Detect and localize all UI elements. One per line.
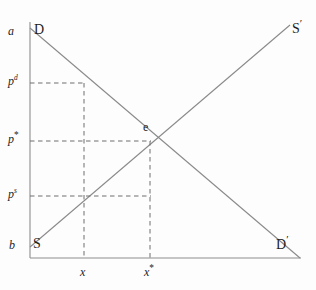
demand-intercept-label-a: a (8, 25, 14, 37)
equilibrium-point-label: e (143, 121, 148, 133)
supply-intercept-label-b: b (9, 239, 15, 251)
supply-demand-chart: a D S′ pd p* e ps b S D′ x x* (0, 0, 316, 290)
demand-curve (30, 28, 300, 258)
quantity-x-star-label: x* (144, 266, 154, 278)
price-supply-label: ps (8, 188, 17, 200)
supply-curve (30, 25, 290, 247)
price-supply-superscript: s (14, 186, 17, 195)
demand-curve-end-label: D′ (276, 238, 289, 252)
supply-prime-mark: ′ (300, 17, 302, 29)
demand-prime-mark: ′ (286, 233, 288, 245)
quantity-x-label: x (80, 266, 85, 278)
quantity-x-star-superscript: * (149, 263, 154, 273)
price-demand-label: pd (8, 75, 18, 87)
demand-curve-start-label: D (34, 23, 44, 37)
price-demand-superscript: d (14, 73, 18, 82)
price-equilibrium-superscript: * (14, 130, 19, 140)
supply-curve-end-label: S′ (292, 22, 302, 36)
supply-curve-end-text: S (292, 21, 300, 36)
supply-curve-start-label: S (33, 237, 41, 251)
price-equilibrium-label: p* (8, 133, 19, 145)
demand-curve-end-text: D (276, 237, 286, 252)
chart-canvas (0, 0, 316, 290)
